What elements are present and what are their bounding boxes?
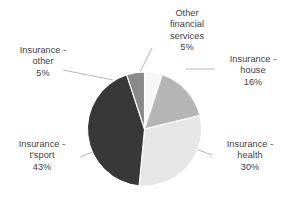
pie-label-line: Insurance -: [218, 54, 288, 65]
pie-label-line: t'sport: [2, 150, 82, 161]
pie-label-line: financial: [150, 19, 224, 30]
pie-label-line: Insurance -: [2, 139, 82, 150]
pie-label-line: Other: [150, 8, 224, 19]
pie-label-insurance-other: Insurance - other 5%: [4, 45, 82, 79]
pie-label-percent: 30%: [214, 162, 286, 173]
pie-chart-figure: Other financial services 5% Insurance - …: [0, 0, 290, 206]
pie-label-line: Insurance -: [4, 45, 82, 56]
pie-label-line: Insurance -: [214, 139, 286, 150]
pie-label-line: health: [214, 150, 286, 161]
pie-label-insurance-health: Insurance - health 30%: [214, 139, 286, 173]
pie-label-insurance-house: Insurance - house 16%: [218, 54, 288, 88]
pie-label-line: house: [218, 65, 288, 76]
pie-label-line: services: [150, 31, 224, 42]
pie-slices: [88, 72, 202, 186]
pie-label-other-financial-services: Other financial services 5%: [150, 8, 224, 54]
pie-label-percent: 5%: [4, 68, 82, 79]
pie-label-percent: 43%: [2, 162, 82, 173]
pie-label-percent: 16%: [218, 77, 288, 88]
pie-chart-canvas: [0, 0, 290, 206]
pie-label-line: other: [4, 56, 82, 67]
pie-label-percent: 5%: [150, 42, 224, 53]
pie-label-insurance-tsport: Insurance - t'sport 43%: [2, 139, 82, 173]
